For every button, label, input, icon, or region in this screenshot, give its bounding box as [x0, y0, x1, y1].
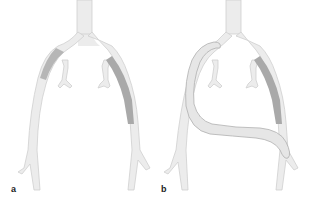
panel-label-b: b: [161, 184, 167, 194]
arterial-tree-diagram-b: [156, 0, 313, 206]
panel-label-a: a: [11, 184, 16, 194]
arterial-tree-diagram-a: [0, 0, 157, 206]
panel-a: a: [0, 0, 157, 206]
panel-b: b: [156, 0, 313, 206]
